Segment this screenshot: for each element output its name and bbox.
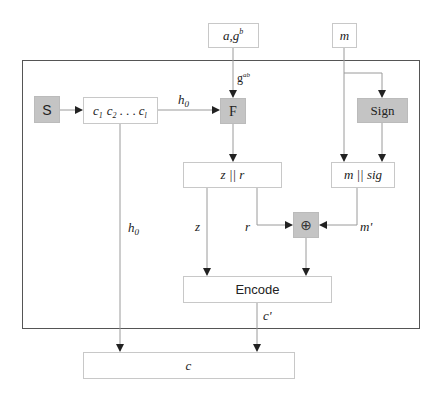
encryption-diagram: a,gb m S c1c2. . .cl F Sign z || r m || … (0, 0, 438, 398)
xor-box: ⊕ (294, 213, 319, 238)
m-sig-box: m || sig (332, 163, 395, 188)
edge-r-to-xor (257, 187, 292, 225)
output-box-label: c (186, 358, 192, 373)
ciphertext-chain-box: c1c2. . .cl (84, 98, 158, 124)
f-box: F (221, 99, 246, 124)
edge-msig-to-xor (320, 187, 357, 225)
label-gab: gab (237, 71, 251, 85)
connectors (60, 47, 382, 351)
label-gab-sup: ab (243, 71, 251, 79)
label-m-prime: m' (360, 219, 372, 234)
key-input-box: a,gb (209, 24, 259, 48)
label-c-prime: c' (263, 308, 272, 323)
key-input-sup: b (239, 27, 243, 36)
message-input-box: m (333, 24, 357, 48)
sign-box-label: Sign (371, 103, 395, 118)
sign-box: Sign (358, 99, 408, 123)
xor-icon: ⊕ (300, 217, 312, 233)
f-box-label: F (229, 104, 237, 119)
z-r-box-label: z || r (220, 167, 246, 182)
chain-dots: . . . (120, 103, 136, 118)
z-r-box: z || r (184, 163, 282, 188)
label-h0-left-sub: 0 (135, 227, 140, 237)
encode-box: Encode (184, 277, 332, 303)
chain-c1-sub: 1 (99, 111, 103, 120)
key-input-base: a,g (223, 28, 240, 43)
label-h0-top-sub: 0 (185, 99, 190, 109)
s-box: S (35, 97, 60, 123)
label-h0-left: h0 (128, 220, 140, 237)
label-r: r (245, 219, 251, 234)
chain-c2-sub: 2 (113, 111, 117, 120)
output-box: c (84, 353, 295, 379)
message-input-label: m (340, 28, 349, 43)
encode-box-label: Encode (235, 282, 279, 297)
label-h0-top: h0 (178, 92, 190, 109)
s-box-label: S (42, 102, 51, 118)
label-z: z (194, 219, 200, 234)
m-sig-box-label: m || sig (344, 167, 383, 182)
edge-m-to-sign (344, 73, 382, 97)
